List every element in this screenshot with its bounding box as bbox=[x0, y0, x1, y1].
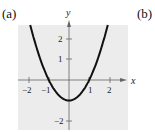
y-axis-arrow-icon bbox=[67, 20, 71, 27]
x-tick-label: 1 bbox=[88, 85, 93, 95]
x-tick-label: 2 bbox=[107, 85, 112, 95]
y-tick-label: 2 bbox=[58, 34, 63, 44]
y-axis-label: y bbox=[65, 7, 71, 18]
parabola-chart: x y −2 −1 1 2 2 1 −2 bbox=[0, 0, 155, 132]
x-tick-label: −2 bbox=[22, 85, 32, 95]
x-axis-label: x bbox=[130, 75, 136, 86]
x-tick-label: −1 bbox=[41, 85, 51, 95]
y-tick-label: 1 bbox=[58, 54, 63, 64]
y-tick-label: −2 bbox=[54, 116, 64, 126]
